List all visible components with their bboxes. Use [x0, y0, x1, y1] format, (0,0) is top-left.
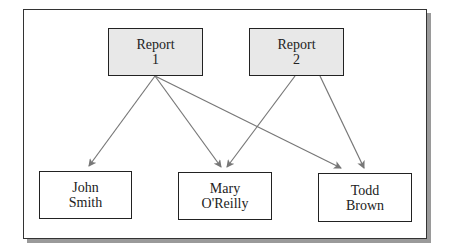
person-first-name: John: [72, 180, 98, 195]
report-1-label: Report: [136, 37, 174, 52]
edge-report1-todd: [155, 76, 341, 168]
edge-report2-mary: [227, 76, 295, 167]
report-2-label: Report: [277, 37, 315, 52]
edge-report2-todd: [320, 76, 364, 168]
edge-report1-mary: [155, 76, 221, 167]
person-last-name: Smith: [69, 195, 102, 210]
person-first-name: Mary: [210, 181, 240, 196]
report-2-number: 2: [293, 52, 300, 67]
report-2-node: Report 2: [249, 28, 344, 76]
edge-report1-john: [89, 76, 155, 166]
person-todd-brown-node: Todd Brown: [318, 173, 412, 222]
person-last-name: O'Reilly: [202, 196, 249, 211]
person-first-name: Todd: [351, 183, 380, 198]
report-1-number: 1: [152, 52, 159, 67]
person-mary-oreilly-node: Mary O'Reilly: [178, 172, 272, 220]
report-1-node: Report 1: [108, 28, 203, 76]
person-last-name: Brown: [346, 198, 384, 213]
person-john-smith-node: John Smith: [39, 171, 132, 219]
